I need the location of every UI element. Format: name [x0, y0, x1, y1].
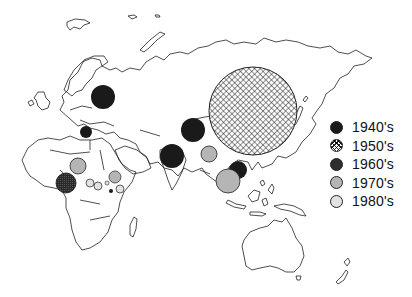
light-circle-icon: [330, 195, 343, 208]
legend-item-1940s: 1940's: [330, 118, 394, 137]
arctic-islands-outline: [128, 15, 160, 19]
philippines-outline: [260, 180, 274, 194]
svalbard-outline: [67, 19, 90, 30]
new-zealand-outline: [336, 258, 350, 284]
solid-circle-icon: [330, 121, 343, 134]
stippled-circle-icon: [330, 158, 343, 171]
madagascar-outline: [130, 217, 137, 237]
legend-item-1980s: 1980's: [330, 192, 394, 211]
marker-myanmar-1970s: [201, 146, 217, 162]
novaya-zemlya-outline: [140, 32, 165, 52]
legend-label: 1970's: [352, 175, 394, 191]
british-isles-outline: [28, 92, 50, 110]
map-figure: 1940's 1950's 1960's 1970's 1980's: [0, 0, 412, 297]
marker-china-1950s: [209, 67, 297, 155]
gray-circle-icon: [330, 176, 343, 189]
marker-east-africa-1960s: [109, 189, 113, 193]
marker-central-africa-1980s: [86, 179, 94, 187]
legend-label: 1980's: [352, 193, 394, 209]
marker-central-africa-2-1980s: [94, 182, 102, 190]
marker-western-russia-1940s: [91, 85, 115, 109]
australia-outline: [242, 218, 304, 272]
legend-label: 1940's: [352, 119, 394, 135]
marker-horn-africa-1980s: [116, 185, 124, 193]
landmass-outlines: [22, 15, 372, 284]
hatched-circle-icon: [330, 139, 343, 152]
marker-central-asia-1940s: [181, 118, 205, 142]
indonesia-outline: [226, 190, 268, 216]
tasmania-outline: [296, 276, 301, 280]
legend-item-1960s: 1960's: [330, 155, 394, 174]
legend: 1940's 1950's 1960's 1970's 1980's: [330, 118, 394, 211]
marker-india-1940s: [160, 144, 184, 168]
legend-item-1950s: 1950's: [330, 137, 394, 156]
marker-west-africa-1960s: [56, 173, 76, 193]
marker-sahel-1970s: [70, 158, 86, 174]
legend-label: 1960's: [352, 156, 394, 172]
marker-balkans-1940s: [80, 126, 92, 138]
marker-east-africa-1980s: [105, 181, 109, 185]
marker-southeast-asia-1970s: [216, 169, 240, 193]
new-guinea-outline: [274, 204, 306, 216]
arabia-outline: [115, 146, 151, 174]
marker-ethiopia-1970s: [109, 171, 121, 183]
legend-item-1970s: 1970's: [330, 174, 394, 193]
legend-label: 1950's: [352, 138, 394, 154]
